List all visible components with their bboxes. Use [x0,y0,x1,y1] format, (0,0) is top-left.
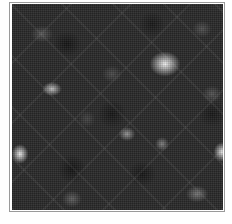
noise-texture-image [12,4,223,210]
dither-pattern [12,4,223,210]
